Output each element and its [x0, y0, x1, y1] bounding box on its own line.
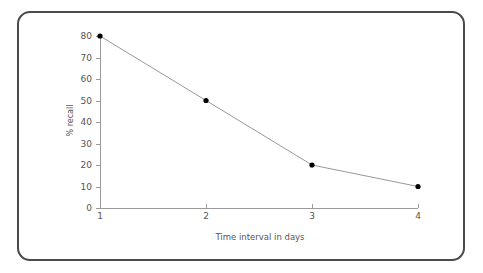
series-markers [97, 33, 420, 189]
series-line [100, 36, 418, 187]
data-point [309, 162, 314, 167]
data-point [203, 98, 208, 103]
chart-page: 0 10 20 30 40 50 60 70 80 1 2 3 4 % reca… [0, 0, 483, 273]
data-point [97, 33, 102, 38]
series-plot-area [0, 0, 483, 273]
data-point [415, 184, 420, 189]
line-chart: 0 10 20 30 40 50 60 70 80 1 2 3 4 % reca… [0, 0, 483, 273]
